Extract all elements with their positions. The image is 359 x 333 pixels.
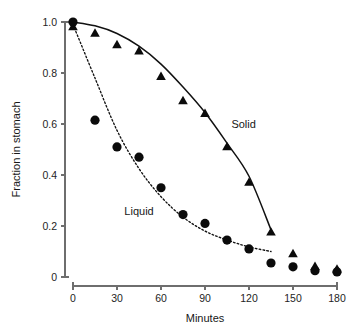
x-tick-label: 120 bbox=[240, 292, 258, 304]
y-tick-label: 0.2 bbox=[42, 220, 57, 232]
fit-curves bbox=[73, 22, 271, 252]
data-point-liquid bbox=[156, 183, 165, 192]
data-point-liquid bbox=[332, 267, 341, 276]
data-point-liquid bbox=[90, 116, 99, 125]
data-point-solid bbox=[134, 46, 144, 54]
data-point-solid bbox=[90, 28, 100, 36]
data-point-solid bbox=[112, 40, 122, 48]
data-point-markers bbox=[68, 17, 342, 276]
chart-container: 00.20.40.60.81.0 0306090120150180 Solid … bbox=[0, 0, 359, 333]
x-tick-label: 60 bbox=[155, 292, 167, 304]
data-point-liquid bbox=[266, 258, 275, 267]
data-point-liquid bbox=[178, 210, 187, 219]
data-point-liquid bbox=[68, 17, 77, 26]
series-label-solid: Solid bbox=[231, 118, 255, 130]
x-axis: 0306090120150180 bbox=[70, 282, 346, 304]
y-axis: 00.20.40.60.81.0 bbox=[42, 16, 69, 283]
data-point-solid bbox=[288, 249, 298, 257]
y-tick-label: 0.6 bbox=[42, 118, 57, 130]
fit-curve-liquid bbox=[73, 25, 271, 252]
y-tick-label: 0.8 bbox=[42, 67, 57, 79]
data-point-solid bbox=[266, 227, 276, 235]
data-point-liquid bbox=[134, 153, 143, 162]
data-point-liquid bbox=[222, 235, 231, 244]
x-tick-label: 30 bbox=[111, 292, 123, 304]
data-point-solid bbox=[200, 109, 210, 117]
data-point-liquid bbox=[244, 244, 253, 253]
x-tick-label: 180 bbox=[328, 292, 346, 304]
x-axis-title: Minutes bbox=[186, 312, 225, 324]
y-axis-title: Fraction in stomach bbox=[10, 102, 22, 198]
x-tick-label: 0 bbox=[70, 292, 76, 304]
series-label-liquid: Liquid bbox=[124, 205, 153, 217]
y-tick-label: 0 bbox=[51, 271, 57, 283]
data-point-solid bbox=[156, 72, 166, 80]
data-point-liquid bbox=[310, 266, 319, 275]
x-tick-group: 0306090120150180 bbox=[70, 282, 346, 304]
data-point-solid bbox=[222, 142, 232, 150]
gastric-emptying-scatter-chart: 00.20.40.60.81.0 0306090120150180 Solid … bbox=[0, 0, 359, 333]
x-tick-label: 90 bbox=[199, 292, 211, 304]
data-point-solid bbox=[178, 96, 188, 104]
data-point-liquid bbox=[112, 142, 121, 151]
x-tick-label: 150 bbox=[284, 292, 302, 304]
y-tick-label: 1.0 bbox=[42, 16, 57, 28]
data-point-liquid bbox=[200, 219, 209, 228]
y-tick-label: 0.4 bbox=[42, 169, 57, 181]
data-point-liquid bbox=[288, 262, 297, 271]
